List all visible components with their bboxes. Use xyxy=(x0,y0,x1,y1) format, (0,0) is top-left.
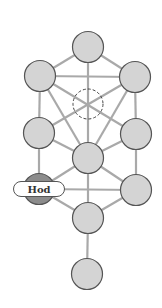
node-chesed[interactable] xyxy=(121,119,152,150)
node-chokmah[interactable] xyxy=(120,62,151,93)
node-malkuth[interactable] xyxy=(72,259,103,290)
hod-label-text: Hod xyxy=(27,184,50,195)
tree-of-life-diagram xyxy=(0,0,162,308)
hod-label: Hod xyxy=(13,181,65,197)
node-kether[interactable] xyxy=(73,32,104,63)
node-tiphareth[interactable] xyxy=(73,143,104,174)
node-netzach[interactable] xyxy=(121,175,152,206)
node-binah[interactable] xyxy=(25,61,56,92)
node-geburah[interactable] xyxy=(24,118,55,149)
node-yesod[interactable] xyxy=(73,203,104,234)
